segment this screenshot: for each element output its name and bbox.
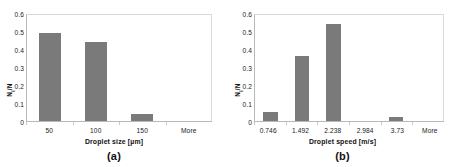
plot-b: Ni/N 0.6 0.5 0.4 0.3 0.2 0.1 0	[228, 0, 457, 167]
bar-slot	[255, 15, 286, 121]
bar-slot	[286, 15, 317, 121]
bar-slot	[27, 15, 73, 121]
y-tick-label: 0.6	[15, 11, 24, 18]
x-tick-label: 150	[119, 127, 166, 134]
y-tick-label: 0.1	[15, 101, 24, 108]
x-axis-ticks-b: 0.746 1.492 2.238 2.984 3.73 More	[252, 127, 446, 134]
y-tick-label: 0.6	[243, 11, 252, 18]
bar-slot	[318, 15, 349, 121]
x-tick-label: 100	[73, 127, 120, 134]
y-tick-label: 0.4	[15, 47, 24, 54]
y-tick-label: 0	[20, 119, 24, 126]
y-tick-label: 0.3	[15, 65, 24, 72]
y-tick-label: 0.2	[243, 83, 252, 90]
bar-150	[131, 114, 152, 121]
plot-a: Ni/N 0.6 0.5 0.4 0.3 0.2 0.1 0	[0, 0, 228, 167]
figure-two-panel-histograms: Ni/N 0.6 0.5 0.4 0.3 0.2 0.1 0	[0, 0, 457, 167]
bar-50	[39, 33, 60, 121]
y-tick-label: 0.1	[243, 101, 252, 108]
x-axis-tick-marks-a	[26, 122, 212, 125]
x-axis-ticks-a: 50 100 150 More	[26, 127, 212, 134]
bar-series-b	[255, 15, 443, 121]
panel-caption-a: (a)	[0, 150, 228, 162]
y-tick-label: 0.5	[15, 29, 24, 36]
panel-a: Ni/N 0.6 0.5 0.4 0.3 0.2 0.1 0	[0, 0, 228, 167]
x-tick-label: More	[414, 127, 446, 134]
x-tick-label: 3.73	[381, 127, 413, 134]
panel-caption-b: (b)	[228, 150, 457, 162]
x-tick-label: 2.984	[349, 127, 381, 134]
panel-b: Ni/N 0.6 0.5 0.4 0.3 0.2 0.1 0	[228, 0, 457, 167]
bar-slot	[380, 15, 411, 121]
x-tick-label: 1.492	[284, 127, 316, 134]
bar-slot	[119, 15, 165, 121]
bar-0746	[263, 112, 277, 121]
y-tick-label: 0.4	[243, 47, 252, 54]
x-axis-label-b: Droplet speed [m/s]	[228, 138, 457, 145]
bar-100	[85, 42, 106, 122]
x-tick-label: 50	[26, 127, 73, 134]
x-axis-tick-marks-b	[254, 122, 444, 125]
x-tick-label: 2.238	[317, 127, 349, 134]
x-axis-label-a: Droplet size [µm]	[0, 138, 228, 145]
bar-373	[389, 117, 403, 121]
bar-1492	[295, 56, 309, 121]
x-tick-label: More	[166, 127, 213, 134]
y-tick-label: 0.5	[243, 29, 252, 36]
bar-slot	[165, 15, 211, 121]
bar-slot	[412, 15, 443, 121]
y-tick-label: 0	[248, 119, 252, 126]
bar-slot	[73, 15, 119, 121]
bar-2238	[326, 24, 340, 121]
y-tick-label: 0.2	[15, 83, 24, 90]
plot-area-b	[254, 14, 444, 122]
y-tick-label: 0.3	[243, 65, 252, 72]
bar-series-a	[27, 15, 211, 121]
bar-slot	[349, 15, 380, 121]
plot-area-a	[26, 14, 212, 122]
x-tick-label: 0.746	[252, 127, 284, 134]
